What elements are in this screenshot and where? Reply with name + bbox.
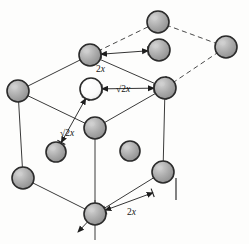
atom-highlight	[83, 49, 90, 54]
atom-face-front	[120, 141, 140, 161]
atom-face-left	[46, 142, 66, 162]
label-upper-diag: √2x	[116, 84, 130, 94]
atom-corner-front-bottom	[84, 203, 106, 225]
atom-highlight	[152, 44, 159, 49]
label-text: 2x	[121, 84, 130, 94]
atom-face-top-right	[148, 39, 170, 61]
lattice-diagram	[0, 0, 249, 244]
atom-spheres	[7, 11, 237, 225]
atom-highlight	[11, 85, 18, 90]
cell-edge-solid	[163, 88, 165, 172]
cell-edge-solid	[95, 88, 165, 128]
dimension-ticks	[57, 46, 176, 214]
cell-edge-solid	[18, 91, 23, 178]
label-text: 2x	[127, 207, 136, 217]
atom-corner-back-top	[147, 11, 169, 33]
atom-highlight	[50, 146, 56, 150]
atom-highlight	[88, 122, 95, 127]
atom-corner-left-mid	[7, 80, 29, 102]
arrow-top-edge	[101, 51, 148, 54]
cell-edge-solid	[18, 55, 90, 91]
label-top-edge: 2x	[96, 64, 105, 74]
atom-highlight	[124, 145, 130, 149]
atom-corner-right-mid	[154, 77, 176, 99]
atom-highlight	[156, 166, 163, 171]
atom-corner-left-bottom	[12, 167, 34, 189]
atom-corner-front-top	[84, 117, 106, 139]
atom-highlight	[158, 82, 165, 87]
label-lower-diag: √2x	[60, 128, 74, 138]
atom-highlight	[84, 83, 91, 88]
label-bottom-edge: 2x	[127, 207, 136, 217]
figure-canvas: 2x√2x√2x2x	[0, 0, 249, 244]
cell-edge-solid	[23, 178, 95, 214]
atom-corner-right-bottom	[152, 161, 174, 183]
atom-face-top-center-open	[80, 78, 102, 100]
dimension-arrows	[61, 51, 154, 232]
atom-highlight	[151, 16, 158, 21]
atom-highlight	[88, 208, 95, 213]
label-text: 2x	[65, 128, 74, 138]
label-text: 2x	[96, 64, 105, 74]
atom-corner-back-right	[215, 36, 237, 58]
atom-highlight	[16, 172, 23, 177]
atom-highlight	[219, 41, 226, 46]
atom-corner-top-left	[79, 44, 101, 66]
